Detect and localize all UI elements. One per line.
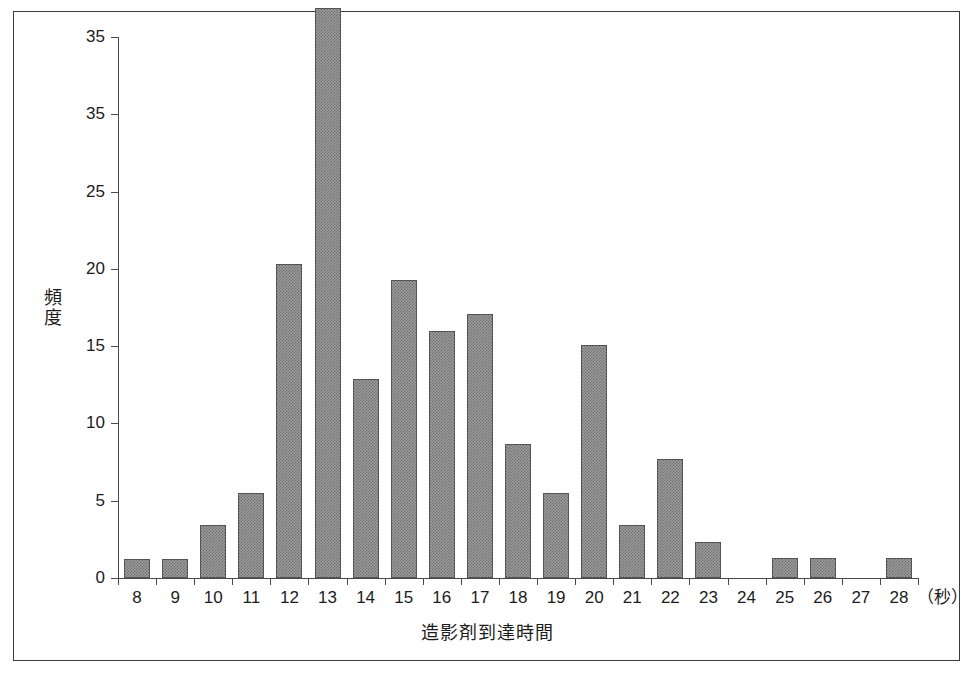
bar	[505, 444, 531, 578]
bar	[810, 558, 836, 578]
y-axis-tick	[111, 192, 118, 193]
x-axis-tick-label: 10	[204, 589, 223, 606]
x-axis-tick-label: 14	[356, 589, 375, 606]
y-axis-tick	[111, 269, 118, 270]
x-axis-tick-label: 13	[318, 589, 337, 606]
x-axis-tick	[575, 578, 576, 585]
x-axis-tick-label: 26	[813, 589, 832, 606]
y-axis-tick-label: 10	[65, 414, 105, 431]
y-axis-tick-label: 25	[65, 183, 105, 200]
bar	[772, 558, 798, 578]
bar	[200, 525, 226, 578]
x-axis-tick-label: 12	[280, 589, 299, 606]
x-axis-tick	[613, 578, 614, 585]
x-axis-tick-label: 23	[699, 589, 718, 606]
x-axis-tick	[918, 578, 919, 585]
y-axis-tick	[111, 501, 118, 502]
x-axis-tick-label: 21	[623, 589, 642, 606]
y-axis-tick-label: 35	[65, 28, 105, 45]
y-axis-tick	[111, 423, 118, 424]
y-axis-tick-label: 5	[65, 492, 105, 509]
y-axis-tick	[111, 114, 118, 115]
x-axis-tick-label: 25	[775, 589, 794, 606]
x-axis-tick-label: 22	[661, 589, 680, 606]
x-axis-tick	[804, 578, 805, 585]
bar	[657, 459, 683, 578]
bar	[467, 314, 493, 578]
bar	[581, 345, 607, 578]
y-axis-tick-labels: 35352520151050	[60, 0, 105, 674]
x-axis-tick	[270, 578, 271, 585]
x-axis-tick	[499, 578, 500, 585]
y-axis-title: 頻度	[38, 288, 64, 328]
bar	[162, 559, 188, 578]
x-axis-tick-label: 16	[432, 589, 451, 606]
bar	[619, 525, 645, 578]
bar	[391, 280, 417, 578]
y-axis-tick-label: 0	[65, 569, 105, 586]
bar	[124, 559, 150, 578]
y-axis-tick-label: 15	[65, 337, 105, 354]
x-axis-tick-label: 9	[170, 589, 179, 606]
x-axis-tick	[232, 578, 233, 585]
y-axis-tick-label: 20	[65, 260, 105, 277]
y-axis-tick	[111, 578, 118, 579]
bar	[238, 493, 264, 578]
y-axis-tick	[111, 37, 118, 38]
x-axis-tick	[156, 578, 157, 585]
bar	[429, 331, 455, 578]
x-axis-tick-label: 19	[547, 589, 566, 606]
x-axis-tick	[537, 578, 538, 585]
x-axis-tick-label: 18	[509, 589, 528, 606]
x-axis-tick	[689, 578, 690, 585]
x-axis-tick	[347, 578, 348, 585]
x-axis-tick	[423, 578, 424, 585]
x-axis-tick	[651, 578, 652, 585]
x-axis-tick	[308, 578, 309, 585]
x-axis-tick-label: 8	[132, 589, 141, 606]
bar	[695, 542, 721, 578]
x-axis-tick	[194, 578, 195, 585]
x-axis-tick	[880, 578, 881, 585]
bar	[276, 264, 302, 578]
x-axis-unit-label: （秒）	[917, 589, 968, 606]
x-axis-tick-label: 17	[470, 589, 489, 606]
x-axis-tick	[385, 578, 386, 585]
x-axis-tick-label: 28	[889, 589, 908, 606]
x-axis-tick	[118, 578, 119, 585]
x-axis-tick	[728, 578, 729, 585]
chart-figure: 35352520151050 8910111213141516171819202…	[0, 0, 974, 674]
bar	[315, 8, 341, 578]
x-axis-title: 造影剤到達時間	[0, 618, 974, 644]
x-axis-tick	[461, 578, 462, 585]
y-axis-tick	[111, 346, 118, 347]
x-axis-tick-label: 11	[243, 589, 261, 606]
bar	[353, 379, 379, 578]
y-axis-line	[118, 37, 119, 579]
y-axis-tick-label: 35	[65, 105, 105, 122]
x-axis-tick-label: 24	[737, 589, 756, 606]
x-axis-tick-label: 20	[585, 589, 604, 606]
x-axis-tick-label: 15	[394, 589, 413, 606]
bar	[886, 558, 912, 578]
x-axis-line	[118, 578, 919, 579]
x-axis-tick-label: 27	[851, 589, 870, 606]
x-axis-tick	[766, 578, 767, 585]
x-axis-tick	[842, 578, 843, 585]
bar	[543, 493, 569, 578]
